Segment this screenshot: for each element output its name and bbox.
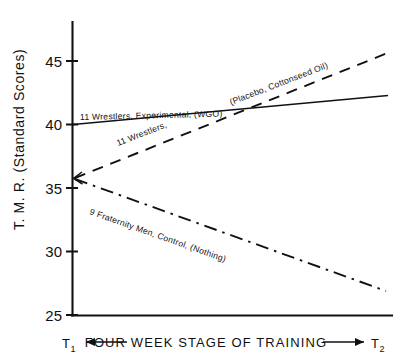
series-label-wrestlers-dashed: 11 Wrestlers, — [115, 120, 168, 148]
x-axis-start-sublabel: 1 — [70, 344, 75, 354]
series-label-wrestlers-experimental: 11 Wrestlers, Experimental, (WGO) — [80, 109, 223, 122]
y-axis-title-text: T. M. R. (Standard Scores) — [11, 49, 27, 230]
axis-group — [72, 22, 392, 316]
y-axis-title: T. M. R. (Standard Scores) — [11, 49, 27, 230]
x-axis-end-label: T — [371, 336, 379, 351]
y-axis-tick-labels: 45 40 35 30 25 — [45, 53, 62, 324]
series-label-fraternity-control: 9 Fraternity Men, Control, (Nothing) — [88, 206, 227, 264]
series-line-fraternity-control — [75, 179, 386, 291]
y-tick-label-30: 30 — [45, 243, 62, 260]
right-arrow-icon — [323, 338, 364, 346]
x-axis-caption-group: T 1 FOUR WEEK STAGE OF TRAINING T 2 — [62, 335, 384, 354]
x-axis-start-label: T — [62, 336, 70, 351]
chart-figure: 45 40 35 30 25 T. M. R. (Standard Scores… — [0, 0, 408, 363]
series-group — [73, 52, 390, 291]
y-tick-label-45: 45 — [45, 53, 62, 70]
y-tick-label-35: 35 — [45, 180, 62, 197]
x-axis-title-text: FOUR WEEK STAGE OF TRAINING — [85, 335, 327, 350]
chart-canvas: 45 40 35 30 25 T. M. R. (Standard Scores… — [0, 0, 408, 363]
y-tick-label-25: 25 — [45, 307, 62, 324]
y-tick-label-40: 40 — [45, 116, 62, 133]
x-axis-end-sublabel: 2 — [379, 344, 384, 354]
series-label-placebo-cottonseed-oil: (Placebo, Cottonseed Oil) — [228, 60, 329, 107]
